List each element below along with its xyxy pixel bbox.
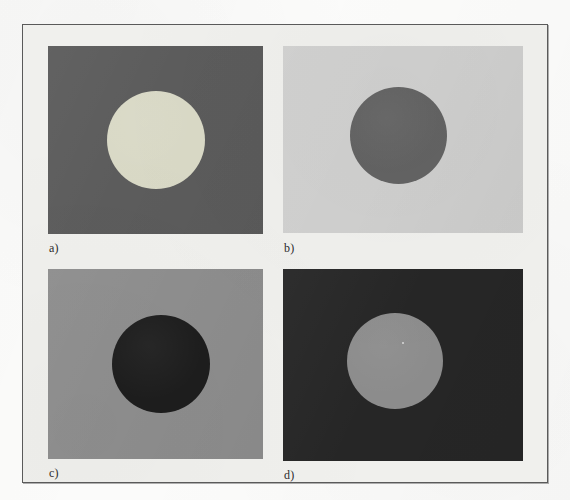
panel-c-disc — [112, 315, 210, 413]
panel-d-background-swatch — [283, 269, 523, 461]
panel-c-label: c) — [49, 467, 59, 479]
panel-a-disc — [107, 91, 205, 189]
panel-b-disc-texture — [350, 87, 447, 184]
panel-d-scan-speck — [402, 342, 404, 344]
panel-b-background-swatch — [283, 46, 523, 233]
panel-b: b) — [283, 46, 523, 258]
panel-d-label: d) — [284, 469, 294, 481]
panel-c-background-swatch — [48, 269, 263, 459]
figure-frame: a) b) c) — [22, 24, 548, 483]
panel-b-label: b) — [284, 242, 294, 254]
scanned-page-background: a) b) c) — [0, 0, 570, 500]
panel-b-disc — [350, 87, 447, 184]
panel-d: d) — [283, 269, 523, 481]
panel-c-disc-texture — [112, 315, 210, 413]
panel-a: a) — [48, 46, 263, 258]
panel-a-background-swatch — [48, 46, 263, 234]
panel-a-disc-texture — [107, 91, 205, 189]
panel-a-label: a) — [49, 242, 59, 254]
panel-c: c) — [48, 269, 263, 481]
panel-d-disc-texture — [347, 313, 443, 409]
panel-d-disc — [347, 313, 443, 409]
